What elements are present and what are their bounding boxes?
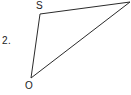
problem-number-label: 2. xyxy=(2,36,11,46)
vertex-label-o: O xyxy=(25,81,33,91)
triangle-sro xyxy=(31,2,130,78)
figure-canvas: 2. S O xyxy=(0,0,131,95)
vertex-label-s: S xyxy=(36,1,43,11)
triangle-figure xyxy=(0,0,131,95)
